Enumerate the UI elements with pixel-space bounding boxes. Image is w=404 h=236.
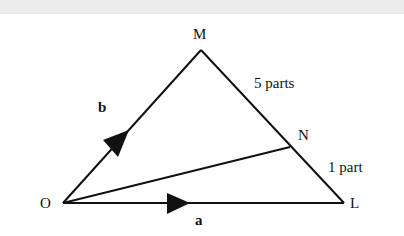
side-om: [63, 50, 201, 203]
vector-a-label: a: [195, 213, 203, 228]
label-1-part: 1 part: [328, 160, 363, 175]
label-m: M: [193, 27, 206, 42]
vector-b-label: b: [98, 100, 106, 115]
label-o: O: [40, 196, 51, 211]
side-ml: [201, 50, 344, 203]
segment-on: [63, 147, 290, 203]
label-5-parts: 5 parts: [254, 76, 294, 91]
label-n: N: [298, 128, 309, 143]
label-l: L: [350, 196, 359, 211]
arrow-a-icon: [167, 193, 190, 214]
